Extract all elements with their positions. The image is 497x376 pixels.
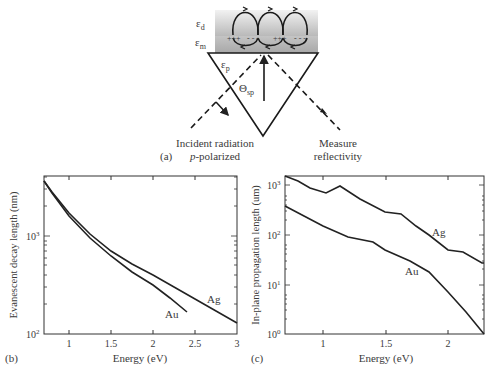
xlabel-b: Energy (eV) <box>113 352 168 365</box>
incident-label-1: Incident radiation <box>176 137 254 149</box>
ytick-c-1: 101 <box>267 279 281 291</box>
panel-c-chart: Ag Au 1 1.5 2 100 101 102 103 Energy (eV… <box>250 176 484 365</box>
charge-plus-2: +++ <box>273 34 287 43</box>
label-au-b: Au <box>165 308 179 320</box>
label-au-c: Au <box>405 265 419 277</box>
ylabel-b: Evanescent decay length (nm) <box>8 191 20 318</box>
charge-plus-1: +++ <box>227 34 241 43</box>
panel-a-label: (a) <box>160 150 173 163</box>
x-ticks-c <box>323 176 448 334</box>
ytick-c-3: 103 <box>267 179 281 191</box>
xtick-b-3: 2 <box>151 338 156 349</box>
polarization-arrow-icon <box>216 102 228 115</box>
ytick-b-2: 103 <box>26 230 40 242</box>
curve-au-b <box>44 181 187 312</box>
incident-label-2: p-polarized <box>189 150 241 162</box>
theta-sp-label: Θsp <box>239 82 254 97</box>
xtick-c-1: 1 <box>321 338 326 349</box>
xtick-c-2: 1.5 <box>380 338 393 349</box>
eps-m-label: εm <box>195 36 207 51</box>
figure: +++ - - - +++ - - - εd εm εp Θsp Inciden… <box>0 0 497 376</box>
label-ag-c: Ag <box>432 226 446 238</box>
panel-b-label: (b) <box>5 352 18 365</box>
plot-area-b <box>44 176 237 334</box>
ylabel-c: In-plane propagation length (um) <box>250 185 262 325</box>
eps-p-label: εp <box>221 58 230 73</box>
plot-area-c <box>285 176 484 334</box>
xlabel-c: Energy (eV) <box>359 352 414 365</box>
measure-label-2: reflectivity <box>314 150 363 162</box>
curve-au-c <box>285 206 484 334</box>
measure-label-1: Measure <box>319 137 357 149</box>
ytick-b-1: 102 <box>26 328 40 340</box>
panel-a-diagram: +++ - - - +++ - - - εd εm εp Θsp Inciden… <box>160 7 363 163</box>
ytick-c-2: 102 <box>267 229 281 241</box>
xtick-b-1: 1 <box>67 338 72 349</box>
panel-b-chart: Ag Au 1 1.5 2 2.5 3 102 103 Energy (eV) … <box>5 176 240 365</box>
eps-d-label: εd <box>196 17 205 32</box>
ytick-c-0: 100 <box>267 328 281 340</box>
xtick-b-5: 3 <box>235 338 240 349</box>
y-ticks-b <box>44 177 237 304</box>
charge-minus-1: - - - <box>247 34 259 43</box>
charge-minus-2: - - - <box>294 34 306 43</box>
reflected-beam <box>268 55 340 130</box>
panel-c-label: (c) <box>251 352 264 365</box>
xtick-c-3: 2 <box>446 338 451 349</box>
xtick-b-4: 2.5 <box>189 338 202 349</box>
label-ag-b: Ag <box>207 293 221 305</box>
xtick-b-2: 1.5 <box>105 338 118 349</box>
